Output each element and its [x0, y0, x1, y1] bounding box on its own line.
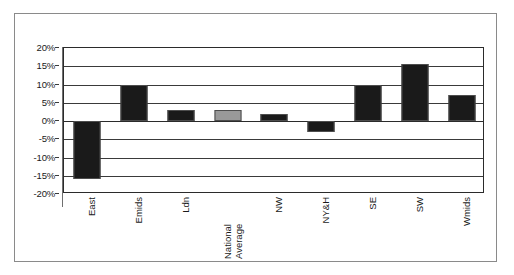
y-axis-tick-label: 10% — [37, 78, 55, 89]
x-axis-tick-label-line: Average — [233, 197, 244, 259]
x-axis-tick-label: Wmids — [461, 197, 472, 226]
bar-emids[interactable] — [121, 85, 148, 122]
bar-slot — [298, 48, 345, 192]
y-axis-tick-mark — [55, 120, 59, 121]
y-axis-tick-mark — [55, 47, 59, 48]
x-axis-label-slot: NY&H — [297, 194, 344, 260]
bar-slot — [64, 48, 111, 192]
x-axis-tick-label: Emids — [133, 197, 144, 223]
y-axis-tick-label: -20% — [34, 188, 55, 199]
x-axis-tick-label: SW — [414, 197, 425, 212]
y-axis-tick-label: 15% — [37, 60, 55, 71]
bar-slot — [158, 48, 205, 192]
x-axis-label-slot: Emids — [110, 194, 157, 260]
bars-layer — [64, 48, 483, 192]
bar-slot — [391, 48, 438, 192]
bar-slot — [204, 48, 251, 192]
bar-sw[interactable] — [401, 64, 428, 121]
chart-figure: 20%15%10%5%0%-5%-10%-15%-20% EastEmidsLd… — [14, 13, 497, 262]
x-axis-tick-label: NationalAverage — [222, 197, 244, 259]
x-axis-label-slot: SW — [390, 194, 437, 260]
x-axis-tick-label: SE — [367, 197, 378, 210]
bar-ldn[interactable] — [167, 110, 194, 121]
y-axis-tick-mark — [55, 193, 59, 194]
bar-slot — [345, 48, 392, 192]
bar-se[interactable] — [355, 85, 382, 122]
y-axis-tick-mark — [55, 175, 59, 176]
bar-slot — [251, 48, 298, 192]
y-axis-tick-mark — [55, 84, 59, 85]
x-axis-tick-label: NW — [273, 197, 284, 213]
x-axis-tick-label: Ldn — [180, 197, 191, 213]
y-axis-tick-label: 20% — [37, 42, 55, 53]
bar-nw[interactable] — [261, 114, 288, 121]
y-axis-tick-mark — [55, 157, 59, 158]
x-axis-tick-label-line: National — [222, 197, 233, 259]
y-axis-tick-label: -10% — [34, 151, 55, 162]
y-axis-tick-mark — [55, 65, 59, 66]
bar-slot — [111, 48, 158, 192]
bar-wmids[interactable] — [448, 95, 475, 121]
x-axis-label-slot: East — [63, 194, 110, 260]
x-axis-tick-label: NY&H — [320, 197, 331, 223]
bar-slot — [438, 48, 485, 192]
y-axis-tick-mark — [55, 138, 59, 139]
bar-ny-h[interactable] — [308, 121, 335, 132]
x-axis-label-slot: NationalAverage — [203, 194, 250, 260]
x-axis-label-slot: SE — [344, 194, 391, 260]
x-axis-tick-label: East — [86, 197, 97, 216]
x-axis-label-slot: Ldn — [157, 194, 204, 260]
y-axis-tick-label: -15% — [34, 169, 55, 180]
bar-east[interactable] — [74, 121, 101, 179]
y-axis-tick-mark — [55, 102, 59, 103]
plot-area — [63, 47, 484, 193]
y-axis-tick-label: 5% — [42, 96, 55, 107]
y-axis-tick-label: 0% — [42, 115, 55, 126]
y-axis-tick-labels: 20%15%10%5%0%-5%-10%-15%-20% — [15, 47, 59, 193]
y-axis-tick-label: -5% — [39, 133, 55, 144]
x-axis-label-slot: NW — [250, 194, 297, 260]
x-axis-label-slot: Wmids — [437, 194, 484, 260]
bar-national-average[interactable] — [214, 110, 241, 121]
x-axis-tick-labels: EastEmidsLdnNationalAverageNWNY&HSESWWmi… — [63, 194, 484, 260]
